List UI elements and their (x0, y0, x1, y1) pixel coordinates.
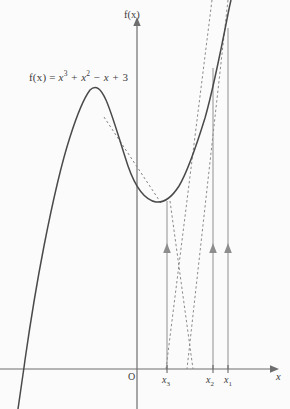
tangent-at-x3 (170, 201, 193, 369)
x-axis (0, 365, 279, 372)
formula-plus-2: + (109, 71, 123, 83)
formula-plus-1: + (68, 71, 82, 83)
tick-label-x1-sub: 1 (228, 380, 232, 388)
arrowhead-x1 (224, 243, 232, 253)
tick-label-x3-sub: 3 (166, 380, 170, 388)
cubic-curve (18, 0, 231, 409)
formula-minus: − (90, 71, 104, 83)
x-axis-label: x (276, 372, 281, 383)
tick-label-x2-sub: 2 (210, 380, 214, 388)
y-axis-label: f(x) (124, 10, 140, 21)
formula-prefix: f(x) = (29, 71, 59, 83)
arrowhead-x2 (209, 243, 217, 253)
arrowhead-x3 (163, 243, 171, 253)
tick-label-x1: x1 (224, 374, 232, 388)
newton-method-plot (0, 0, 290, 409)
tangent-lines (104, 0, 228, 369)
tangent-upper-left (104, 117, 161, 203)
y-axis (133, 17, 140, 409)
formula-constant: 3 (122, 71, 128, 83)
tangent-at-x2 (166, 0, 212, 369)
tangent-at-x1 (187, 0, 228, 369)
function-formula-label: f(x) = x3 + x2 − x + 3 (29, 70, 128, 83)
figure-canvas: f(x) = x3 + x2 − x + 3 f(x) x O x3 x2 x1 (0, 0, 290, 409)
tick-label-x3: x3 (162, 374, 170, 388)
vertical-iterate-lines (163, 28, 232, 369)
tick-label-x2: x2 (206, 374, 214, 388)
origin-label: O (128, 372, 135, 382)
